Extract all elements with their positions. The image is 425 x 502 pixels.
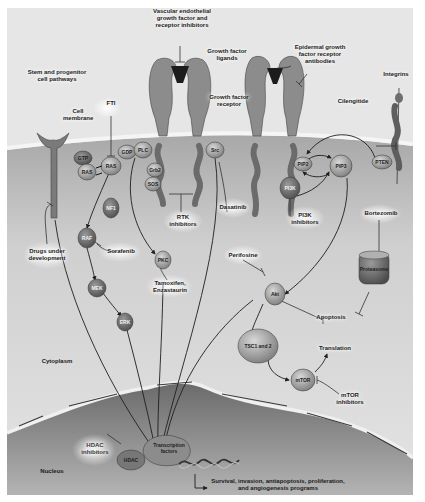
raf-label: RAF	[78, 235, 96, 241]
pathway-diagram: Vascular endothelial growth factor and r…	[7, 8, 413, 495]
sorafenib-label: Sorafenib	[104, 248, 138, 255]
nucleus-label: Nucleus	[37, 468, 67, 475]
dasatinib-label: Dasatinib	[215, 204, 251, 211]
pi3k-node-label: PI3K	[281, 185, 299, 191]
tsc-label: TSC1 and 2	[238, 343, 278, 349]
pkc-label: PKC	[154, 257, 172, 263]
proteasome-label: Proteasome	[353, 266, 395, 272]
akt-label: Akt	[266, 291, 284, 297]
translation-label: Translation	[315, 345, 355, 352]
hdac-label: HDAC	[119, 457, 143, 463]
mek-label: MEK	[88, 285, 106, 291]
mtor-inhibitors-label: mTOR inhibitors	[333, 392, 367, 406]
pten-label: PTEN	[372, 159, 392, 165]
bortezomib-label: Bortezomib	[361, 210, 401, 217]
cilengitide-label: Cilengitide	[333, 98, 373, 105]
tamoxifen-enzastaurin-label: Tamoxifen, Enzastaurin	[147, 280, 193, 294]
perifosine-label: Perifosine	[225, 252, 261, 259]
pi3k-inhibitors-label: PI3K inhibitors	[289, 212, 321, 226]
hdac-inhibitors-label: HDAC inhibitors	[79, 442, 111, 456]
egfr-antibodies-label: Epidermal growth factor receptor antibod…	[289, 44, 351, 65]
programs-label: Survival, invasion, antiapoptosis, proli…	[203, 478, 353, 492]
growth-factor-receptor-label: Growth factor receptor	[205, 94, 253, 108]
integrins-label: Integrins	[378, 71, 413, 78]
nf1-label: NF1	[102, 205, 120, 211]
gtp-label: GTP	[74, 155, 92, 161]
fti-label: FTI	[99, 100, 123, 107]
src-label: Src	[206, 147, 224, 153]
pip2-label: PIP2	[294, 161, 312, 167]
sos-label: SOS	[144, 181, 162, 187]
pip3-label: PIP3	[332, 163, 350, 169]
erk-label: ERK	[116, 319, 134, 325]
transcription-factors-label: Transcription factors	[147, 442, 191, 454]
vegf-inhibitors-label: Vascular endothelial growth factor and r…	[147, 8, 217, 29]
ras-1-label: RAS	[78, 169, 96, 175]
grb2-label: Grb2	[146, 167, 164, 173]
ras-2-label: RAS	[102, 163, 120, 169]
growth-factor-ligands-label: Growth factor ligands	[203, 48, 251, 62]
mtor-label: mTOR	[291, 377, 315, 383]
cytoplasm-label: Cytoplasm	[37, 358, 77, 365]
cell-membrane-label: Cell membrane	[63, 108, 93, 122]
rtk-inhibitors-label: RTK inhibitors	[167, 214, 199, 228]
stem-pathways-label: Stem and progenitor cell pathways	[25, 69, 89, 83]
apoptosis-label: Apoptosis	[313, 314, 349, 321]
drugs-under-development-label: Drugs under development	[23, 248, 71, 262]
plc-label: PLC	[134, 147, 152, 153]
